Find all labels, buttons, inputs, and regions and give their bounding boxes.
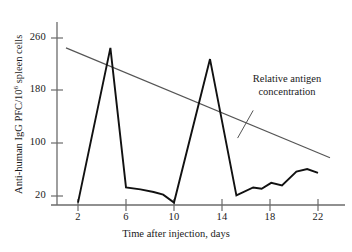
annotation-line-2: concentration [228,85,346,98]
x-tick-label-10: 10 [158,211,190,222]
y-axis-title: Anti-human IgG PFC/106 spleen cells [12,20,25,208]
y-axis-title-post: spleen cells [13,35,24,86]
x-tick-label-6: 6 [110,211,142,222]
annotation-line-1: Relative antigen [253,73,322,84]
x-tick-label-2: 2 [62,211,94,222]
series-relative-antigen-concentration [66,48,330,158]
x-tick-label-14: 14 [206,211,238,222]
relative-antigen-concentration-annotation: Relative antigen concentration [228,72,346,98]
x-axis-title: Time after injection, days [0,228,352,239]
x-tick-label-18: 18 [254,211,286,222]
x-tick-label-22: 22 [302,211,334,222]
figure-container: 260 180 100 20 2 6 10 14 18 22 Anti-huma… [0,0,352,252]
annotation-leader-line [238,110,254,138]
y-axis-title-exponent: 6 [12,86,20,90]
y-axis-title-pre: Anti-human IgG PFC/10 [13,89,24,193]
